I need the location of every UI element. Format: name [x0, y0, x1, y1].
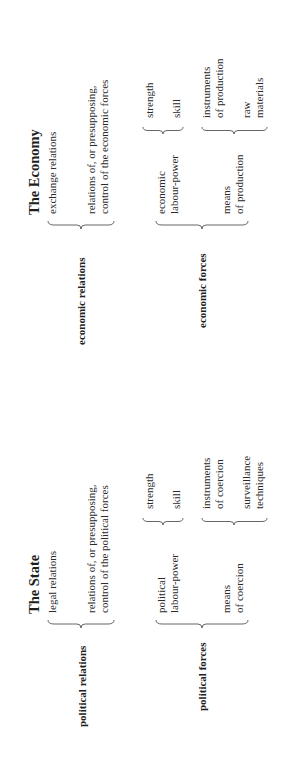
- political-relations-label: political relations: [76, 646, 89, 727]
- surveillance-techniques-line1: surveillance: [240, 456, 253, 509]
- state-title: The State: [27, 555, 42, 614]
- political-strength-text: strength: [143, 474, 156, 509]
- surveillance-techniques-line2: techniques: [253, 462, 266, 509]
- economic-strength-text: strength: [143, 83, 156, 118]
- political-labour-power-brace: [143, 518, 183, 525]
- economic-relations-of-line2: control of the economic forces: [98, 80, 111, 214]
- economic-labour-power-line1: economic: [155, 171, 168, 214]
- economic-forces-brace: [156, 221, 248, 229]
- economic-forces-label: economic forces: [196, 253, 209, 328]
- economy-title: The Economy: [27, 129, 42, 215]
- means-of-coercion-line2: of coercion: [233, 563, 246, 613]
- political-skill-text: skill: [170, 490, 183, 509]
- instruments-of-coercion-line2: of coercion: [213, 459, 226, 509]
- economic-relations-of-line1: relations of, or presupposing,: [85, 85, 98, 214]
- economic-labour-power-brace: [143, 127, 183, 134]
- raw-materials-line2: materials: [253, 78, 266, 118]
- economic-relations-label: economic relations: [75, 258, 88, 345]
- instruments-of-production-line2: of production: [213, 58, 226, 118]
- means-of-coercion-brace: [202, 518, 267, 525]
- political-relations-of-line1: relations of, or presupposing,: [85, 484, 98, 613]
- political-labour-power-line2: labour-power: [168, 554, 181, 613]
- political-labour-power-line1: political: [155, 577, 168, 613]
- means-of-production-brace: [202, 127, 267, 134]
- means-of-coercion-line1: means: [220, 585, 233, 613]
- economic-relations-brace: [48, 221, 114, 229]
- political-forces-label: political forces: [196, 642, 209, 711]
- political-relations-brace: [48, 620, 114, 628]
- economic-labour-power-line2: labour-power: [168, 155, 181, 214]
- instruments-of-production-line1: instruments: [200, 67, 213, 118]
- political-relations-of-line2: control of the political forces: [98, 485, 111, 613]
- instruments-of-coercion-line1: instruments: [200, 458, 213, 509]
- economic-skill-text: skill: [170, 99, 183, 118]
- political-forces-brace: [156, 620, 248, 628]
- means-of-production-line1: means: [220, 186, 233, 214]
- means-of-production-line2: of production: [233, 154, 246, 214]
- exchange-relations-text: exchange relations: [46, 132, 59, 214]
- legal-relations-text: legal relations: [46, 551, 59, 613]
- raw-materials-line1: raw: [240, 102, 253, 119]
